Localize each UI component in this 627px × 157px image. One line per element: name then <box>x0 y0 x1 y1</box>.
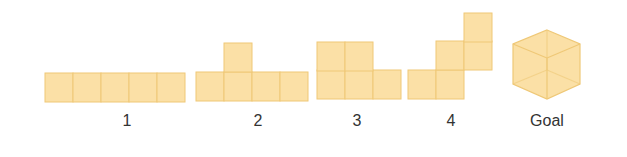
net-3-square <box>317 70 345 99</box>
goal-cube <box>513 30 580 99</box>
net-3-square <box>317 42 345 71</box>
net-2-square <box>224 72 252 101</box>
net-3-square <box>345 42 373 71</box>
net-4-square <box>408 70 436 99</box>
net-3-square <box>345 70 373 99</box>
net-4-square <box>464 13 492 42</box>
goal-label: Goal <box>530 112 564 130</box>
shape-label-3: 3 <box>353 112 362 130</box>
net-4-square <box>464 41 492 70</box>
net-3-square <box>373 70 401 99</box>
diagram-canvas <box>0 0 627 157</box>
net-2-square <box>252 72 280 101</box>
net-2-square <box>196 72 224 101</box>
net-4-square <box>436 41 464 70</box>
net-1-square <box>129 73 157 102</box>
shape-label-2: 2 <box>254 112 263 130</box>
net-2-square <box>224 43 252 72</box>
shape-label-4: 4 <box>447 112 456 130</box>
net-1-square <box>73 73 101 102</box>
cube-nets <box>45 13 492 102</box>
net-2-square <box>280 72 308 101</box>
net-1-square <box>157 73 185 102</box>
shape-label-1: 1 <box>123 112 132 130</box>
net-1-square <box>101 73 129 102</box>
net-1-square <box>45 73 73 102</box>
net-4-square <box>436 70 464 99</box>
